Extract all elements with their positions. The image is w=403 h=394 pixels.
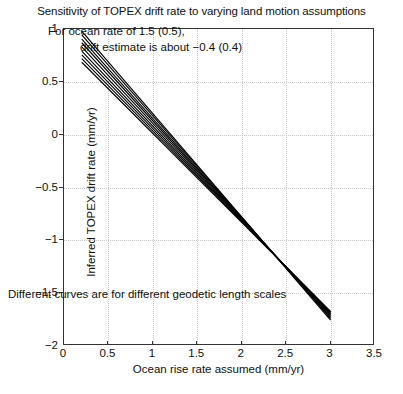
y-tick-mark-2 bbox=[59, 239, 63, 240]
x-tick-label-1: 0.5 bbox=[99, 347, 115, 359]
y-tick-label-4: 0 bbox=[52, 128, 58, 140]
data-line-8 bbox=[82, 62, 331, 311]
x-tick-mark-4 bbox=[241, 341, 242, 345]
x-tick-label-7: 3.5 bbox=[366, 347, 382, 359]
x-tick-label-2: 1 bbox=[149, 347, 155, 359]
y-tick-label-2: −1 bbox=[45, 233, 58, 245]
x-tick-mark-2 bbox=[152, 341, 153, 345]
x-tick-label-5: 2.5 bbox=[277, 347, 293, 359]
x-tick-mark-1 bbox=[107, 341, 108, 345]
y-tick-label-3: −0.5 bbox=[35, 181, 58, 193]
chart-title: Sensitivity of TOPEX drift rate to varyi… bbox=[0, 5, 403, 17]
y-tick-mark-5 bbox=[59, 81, 63, 82]
annotation-ocean-rate-line1: For ocean rate of 1.5 (0.5), bbox=[48, 25, 185, 37]
x-axis-label: Ocean rise rate assumed (mm/yr) bbox=[63, 363, 374, 375]
x-tick-mark-6 bbox=[330, 341, 331, 345]
x-tick-mark-3 bbox=[196, 341, 197, 345]
y-tick-mark-4 bbox=[59, 134, 63, 135]
x-tick-label-0: 0 bbox=[60, 347, 66, 359]
y-tick-label-0: −2 bbox=[45, 339, 58, 351]
y-tick-label-5: 0.5 bbox=[42, 75, 58, 87]
figure-canvas: Sensitivity of TOPEX drift rate to varyi… bbox=[0, 0, 403, 394]
x-tick-mark-5 bbox=[285, 341, 286, 345]
annotation-curves-note: Different curves are for different geode… bbox=[8, 288, 286, 300]
x-tick-label-4: 2 bbox=[238, 347, 244, 359]
y-tick-mark-3 bbox=[59, 187, 63, 188]
x-tick-label-6: 3 bbox=[326, 347, 332, 359]
annotation-ocean-rate-line2: drift estimate is about −0.4 (0.4) bbox=[80, 41, 242, 53]
y-axis-label: Inferred TOPEX drift rate (mm/yr) bbox=[85, 32, 97, 352]
x-tick-label-3: 1.5 bbox=[188, 347, 204, 359]
